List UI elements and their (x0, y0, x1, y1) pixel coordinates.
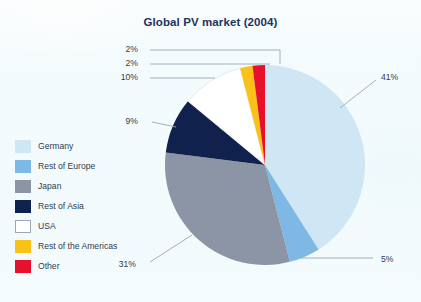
legend-item-label: USA (38, 222, 56, 231)
legend-item[interactable]: Germany (15, 136, 140, 156)
callout-germany: 41% (381, 73, 398, 82)
legend-swatch (15, 220, 31, 233)
legend-swatch (15, 160, 31, 173)
callout-usa: 10% (121, 73, 138, 82)
callout-rest-of-europe: 5% (381, 255, 393, 264)
legend-item-label: Rest of Asia (38, 202, 84, 211)
legend-item[interactable]: USA (15, 216, 140, 236)
callout-rest-of-the-americas: 2% (126, 59, 138, 68)
legend-item[interactable]: Rest of Asia (15, 196, 140, 216)
chart-legend: GermanyRest of EuropeJapanRest of AsiaUS… (15, 136, 140, 276)
leader-germany (340, 80, 376, 108)
chart-figure: Global PV market (2004) GermanyRest of E… (0, 0, 421, 302)
legend-item-label: Japan (38, 182, 61, 191)
legend-item[interactable]: Japan (15, 176, 140, 196)
leader-japan (150, 235, 192, 262)
legend-swatch (15, 140, 31, 153)
leader-other (150, 50, 280, 64)
legend-item-label: Rest of the Americas (38, 242, 117, 251)
legend-item[interactable]: Rest of the Americas (15, 236, 140, 256)
leader-rest-of-asia (152, 122, 176, 127)
legend-item-label: Germany (38, 142, 73, 151)
legend-swatch (15, 240, 31, 253)
legend-item-label: Rest of Europe (38, 162, 95, 171)
callout-japan: 31% (119, 260, 136, 269)
legend-swatch (15, 260, 31, 273)
callout-rest-of-asia: 9% (126, 117, 138, 126)
pie-slice-group (165, 65, 365, 265)
legend-item[interactable]: Rest of Europe (15, 156, 140, 176)
legend-swatch (15, 200, 31, 213)
legend-swatch (15, 180, 31, 193)
callout-other: 2% (126, 45, 138, 54)
legend-item-label: Other (38, 262, 60, 271)
